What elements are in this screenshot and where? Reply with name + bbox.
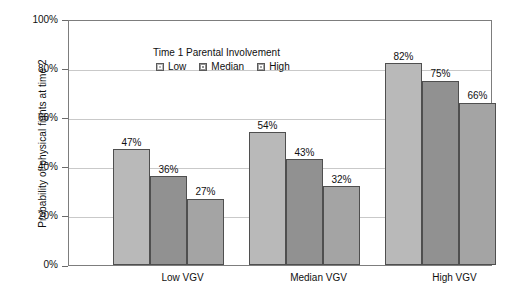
- legend-items: Low Median High: [153, 62, 290, 72]
- bar-high-vgv-low: [385, 63, 422, 265]
- bar-chart: Probability of physical fights at time 2…: [0, 0, 514, 296]
- y-tick-label-80: 80%: [0, 64, 58, 74]
- legend-item-low: Low: [156, 62, 186, 72]
- legend-title: Time 1 Parental Involvement: [153, 47, 290, 59]
- legend-swatch-high-icon: [257, 63, 265, 71]
- legend-label-low: Low: [168, 62, 186, 72]
- bar-value-low-vgv-median: 36%: [150, 165, 187, 175]
- y-tick-label-100: 100%: [0, 15, 58, 25]
- bar-value-high-vgv-median: 75%: [422, 69, 459, 79]
- bar-median-vgv-median: [286, 159, 323, 265]
- bar-low-vgv-median: [150, 176, 187, 265]
- x-label-median-vgv: Median VGV: [248, 272, 389, 283]
- y-tick-label-0: 0%: [0, 260, 58, 270]
- bar-value-high-vgv-low: 82%: [385, 52, 422, 62]
- legend-item-high: High: [257, 62, 290, 72]
- bar-value-high-vgv-high: 66%: [459, 91, 496, 101]
- legend-label-high: High: [269, 62, 290, 72]
- y-axis-title: Probability of physical fights at time 2: [37, 19, 48, 269]
- legend: Time 1 Parental Involvement Low Median H…: [153, 47, 290, 72]
- y-tick-label-20: 20%: [0, 211, 58, 221]
- legend-label-median: Median: [211, 62, 244, 72]
- legend-swatch-median-icon: [199, 63, 207, 71]
- bar-value-low-vgv-low: 47%: [113, 138, 150, 148]
- bar-median-vgv-high: [323, 186, 360, 265]
- plot-area: 47% 36% 27% 54% 43% 32% 82% 75% 66% Time…: [68, 20, 492, 266]
- legend-swatch-low-icon: [156, 63, 164, 71]
- x-label-high-vgv: High VGV: [384, 272, 514, 283]
- y-tick-0: [62, 266, 68, 267]
- bar-high-vgv-median: [422, 81, 459, 266]
- bar-low-vgv-low: [113, 149, 150, 265]
- bar-value-median-vgv-low: 54%: [249, 121, 286, 131]
- bar-low-vgv-high: [187, 199, 224, 265]
- bar-value-median-vgv-high: 32%: [323, 175, 360, 185]
- legend-item-median: Median: [199, 62, 244, 72]
- bar-value-low-vgv-high: 27%: [187, 187, 224, 197]
- bar-median-vgv-low: [249, 132, 286, 265]
- y-tick-label-60: 60%: [0, 113, 58, 123]
- y-tick-label-40: 40%: [0, 162, 58, 172]
- bar-high-vgv-high: [459, 103, 496, 265]
- x-label-low-vgv: Low VGV: [112, 272, 253, 283]
- bar-value-median-vgv-median: 43%: [286, 148, 323, 158]
